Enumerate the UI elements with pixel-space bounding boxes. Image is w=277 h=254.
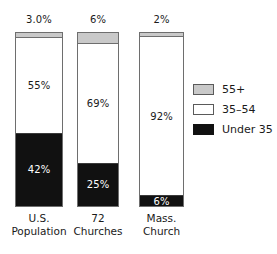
segment-35-54: 55% xyxy=(16,38,62,133)
category-label-line2: Church xyxy=(143,225,180,238)
category-label: 72 Churches xyxy=(73,212,122,238)
chart-legend: 55+ 35–54 Under 35 xyxy=(193,80,277,140)
black-swatch-icon xyxy=(193,124,214,135)
segment-value: 25% xyxy=(87,179,110,190)
stacked-bar: 55% 42% xyxy=(15,32,63,207)
gray-swatch-icon xyxy=(193,84,214,95)
column-top-label: 3.0% xyxy=(26,14,52,25)
segment-value: 42% xyxy=(28,164,51,175)
category-label-line2: Population xyxy=(11,225,66,238)
column-top-label: 6% xyxy=(90,14,106,25)
segment-value: 69% xyxy=(87,98,110,109)
segment-under-35: 6% xyxy=(140,195,183,206)
legend-item-label: Under 35 xyxy=(222,123,273,136)
segment-value: 6% xyxy=(153,196,169,206)
chart-column-72-churches: 6% 69% 25% 72 Churches xyxy=(77,14,119,244)
segment-35-54: 69% xyxy=(78,44,118,163)
legend-item-55-plus: 55+ xyxy=(193,80,277,98)
category-label-line1: U.S. xyxy=(11,212,66,225)
segment-value: 55% xyxy=(28,80,51,91)
category-label-line1: Mass. xyxy=(143,212,180,225)
stacked-bar-chart: 3.0% 55% 42% U.S. Population 6% 69% xyxy=(0,0,277,254)
legend-item-under-35: Under 35 xyxy=(193,120,277,138)
segment-35-54: 92% xyxy=(140,37,183,195)
category-label-line1: 72 xyxy=(73,212,122,225)
chart-column-us-population: 3.0% 55% 42% U.S. Population xyxy=(15,14,63,244)
category-label: Mass. Church xyxy=(143,212,180,238)
segment-55-plus xyxy=(78,33,118,44)
category-label-line2: Churches xyxy=(73,225,122,238)
column-top-label: 2% xyxy=(153,14,169,25)
segment-under-35: 25% xyxy=(78,163,118,207)
chart-column-mass-church: 2% 92% 6% Mass. Church xyxy=(139,14,184,244)
legend-item-label: 35–54 xyxy=(222,103,256,116)
stacked-bar: 92% 6% xyxy=(139,32,184,207)
legend-item-35-54: 35–54 xyxy=(193,100,277,118)
white-swatch-icon xyxy=(193,104,214,115)
segment-under-35: 42% xyxy=(16,133,62,206)
stacked-bar: 69% 25% xyxy=(77,32,119,207)
category-label: U.S. Population xyxy=(11,212,66,238)
legend-item-label: 55+ xyxy=(222,83,245,96)
segment-value: 92% xyxy=(150,111,173,122)
